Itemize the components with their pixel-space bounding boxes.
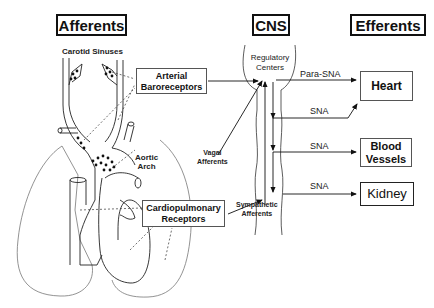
- vagal-afferents-label: Vagal Afferents: [197, 148, 228, 166]
- sympathetic-afferents-label: Sympathetic Afferents: [236, 200, 278, 218]
- cardio-line2: Receptors: [143, 214, 224, 225]
- aortic-arch-line1: Aortic: [135, 153, 158, 162]
- sympathetic-line2: Afferents: [236, 209, 278, 218]
- vessels-line1: Blood: [361, 140, 411, 153]
- arterial-baroreceptors-box: Arterial Baroreceptors: [136, 68, 207, 94]
- afferents-header: Afferents: [56, 14, 127, 36]
- arterial-line1: Arterial: [137, 71, 206, 82]
- carotid-sinuses-label: Carotid Sinuses: [62, 47, 123, 56]
- blood-vessels-box: Blood Vessels: [360, 138, 412, 167]
- para-sna-label: Para-SNA: [300, 69, 341, 79]
- vagal-line2: Afferents: [197, 157, 228, 166]
- efferent-arrows: [273, 80, 357, 194]
- sna-vessels-label: SNA: [310, 141, 329, 151]
- cardio-line1: Cardiopulmonary: [143, 203, 224, 214]
- regulatory-centers-label: Regulatory Centers: [248, 53, 292, 73]
- aortic-arch-label: Aortic Arch: [135, 153, 158, 171]
- receptor-dots: [70, 67, 116, 172]
- cardiopulmonary-receptors-box: Cardiopulmonary Receptors: [142, 200, 225, 227]
- heart-box: Heart: [360, 71, 413, 101]
- vagal-line1: Vagal: [197, 148, 228, 157]
- regulatory-line1: Regulatory: [248, 53, 292, 63]
- sympathetic-line1: Sympathetic: [236, 200, 278, 209]
- regulatory-line2: Centers: [248, 63, 292, 73]
- sna-kidney-label: SNA: [310, 181, 329, 191]
- kidney-box: Kidney: [360, 182, 414, 206]
- cns-header: CNS: [252, 14, 290, 36]
- efferents-header: Efferents: [350, 14, 426, 36]
- sna-heart-label: SNA: [310, 106, 329, 116]
- arterial-line2: Baroreceptors: [137, 82, 206, 93]
- vessels-line2: Vessels: [361, 153, 411, 166]
- aortic-arch-line2: Arch: [135, 162, 158, 171]
